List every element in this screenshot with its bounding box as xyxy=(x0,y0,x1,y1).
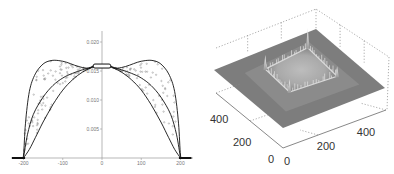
x-tick-label: 100 xyxy=(137,160,146,166)
axis-tick-label: 400 xyxy=(210,113,228,125)
y-tick-label: 0.005 xyxy=(86,126,99,132)
axis-tick-label: 400 xyxy=(357,126,375,138)
line-chart-panel: -200-10001002000.0050.0100.0150.020 xyxy=(0,0,200,174)
axis-tick-label: 200 xyxy=(317,140,335,152)
axis-tick-label: 0 xyxy=(284,155,290,167)
x-tick-label: 200 xyxy=(176,160,185,166)
surface-mesh xyxy=(214,28,385,128)
surface-3d-chart: 40020000200400 xyxy=(200,0,394,174)
center-plateau xyxy=(93,64,110,68)
x-tick-label: -100 xyxy=(58,160,68,166)
x-tick-label: -200 xyxy=(18,160,28,166)
y-tick-label: 0.010 xyxy=(86,97,99,103)
y-tick-label: 0.020 xyxy=(86,39,99,45)
axis-tick-label: 0 xyxy=(268,153,274,165)
line-chart: -200-10001002000.0050.0100.0150.020 xyxy=(0,0,200,174)
surface-plot-panel: 40020000200400 xyxy=(200,0,394,174)
axis-tick-label: 200 xyxy=(233,136,251,148)
scatter-markers xyxy=(24,61,177,151)
x-tick-label: 0 xyxy=(101,160,104,166)
